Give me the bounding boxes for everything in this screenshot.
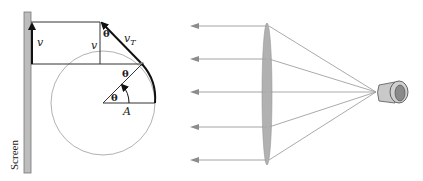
angular-arc [142, 64, 155, 103]
screen-velocity-label: v [37, 36, 44, 49]
light-source-icon [378, 81, 409, 103]
tangential-velocity-label: vT [124, 32, 136, 47]
converging-lens [262, 23, 272, 165]
circular-motion-panel: Screen v v vT θ θ θ A [8, 12, 155, 173]
parallel-rays [198, 26, 267, 160]
diverging-rays [269, 26, 376, 160]
angle-arc-arrow [122, 85, 129, 103]
amplitude-label: A [122, 105, 131, 118]
angle-label-center: θ [111, 92, 118, 103]
screen [24, 12, 31, 173]
angle-label-mid: θ [122, 68, 129, 79]
vertical-velocity-label: v [91, 39, 98, 52]
projection-diagram: Screen v v vT θ θ θ A [0, 0, 423, 181]
screen-label: Screen [8, 140, 20, 170]
angle-label-top: θ [103, 28, 110, 39]
lens-projection-panel [198, 23, 408, 165]
